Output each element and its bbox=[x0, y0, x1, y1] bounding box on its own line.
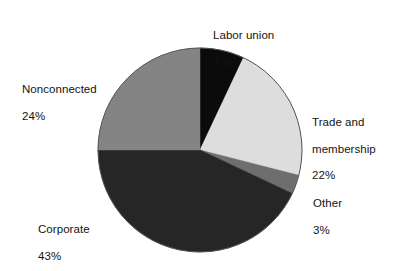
pie-label-corporate: Corporate 43% bbox=[38, 210, 90, 271]
pie-label-labor-union: Labor union 7 % bbox=[213, 16, 274, 82]
pie-slice-nonconnected bbox=[98, 48, 200, 150]
pie-label-nonconnected-value: 24% bbox=[22, 110, 97, 123]
pie-label-nonconnected: Nonconnected 24% bbox=[22, 70, 97, 136]
pie-label-other-name: Other bbox=[313, 197, 342, 210]
pie-label-labor-union-name: Labor union bbox=[213, 29, 274, 42]
pie-label-corporate-name: Corporate bbox=[38, 223, 90, 236]
pie-label-trade-line1: Trade and bbox=[312, 116, 376, 129]
pie-label-other: Other 3% bbox=[313, 184, 342, 250]
pie-label-nonconnected-name: Nonconnected bbox=[22, 83, 97, 96]
pie-label-trade-value: 22% bbox=[312, 169, 376, 182]
pie-label-labor-union-value: 7 % bbox=[213, 56, 274, 69]
pie-label-other-value: 3% bbox=[313, 224, 342, 237]
pie-label-trade-line2: membership bbox=[312, 143, 376, 156]
pie-label-corporate-value: 43% bbox=[38, 250, 90, 263]
pie-chart-figure: Labor union 7 % Nonconnected 24% Trade a… bbox=[0, 0, 401, 271]
pie-label-trade-and-membership: Trade and membership 22% bbox=[312, 103, 376, 195]
